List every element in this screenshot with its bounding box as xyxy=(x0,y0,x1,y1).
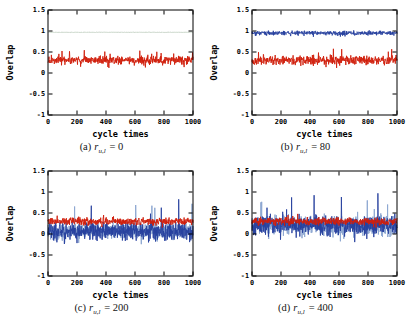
overlap-figure: 1.510.50-0.5-102004006008001000Overlapcy… xyxy=(0,0,407,323)
y-tick-label: 1.5 xyxy=(33,167,45,175)
flat-overlap-line xyxy=(48,32,193,33)
y-tick-label: -1 xyxy=(241,111,249,119)
x-tick-label: 400 xyxy=(304,279,316,287)
y-tick-label: 0.5 xyxy=(237,48,249,56)
x-tick-label: 600 xyxy=(333,118,345,126)
x-tick-label: 200 xyxy=(275,118,287,126)
panel-c: 1.510.50-0.5-102004006008001000Overlapcy… xyxy=(0,161,203,322)
x-tick-label: 1000 xyxy=(185,118,201,126)
panel-a-caption: (a)ru,l= 0 xyxy=(0,140,203,158)
y-axis-label: Overlap xyxy=(5,45,15,81)
y-tick-label: -1 xyxy=(241,272,249,280)
caption-subscript: u,l xyxy=(297,308,304,316)
caption-index: (d) xyxy=(278,302,290,313)
red-overlap-trace xyxy=(252,49,397,68)
x-tick-label: 1000 xyxy=(389,118,405,126)
x-tick-label: 800 xyxy=(362,279,374,287)
caption-index: (b) xyxy=(281,141,293,152)
x-tick-label: 0 xyxy=(46,279,50,287)
y-tick-label: 1.5 xyxy=(237,167,249,175)
x-tick-label: 200 xyxy=(71,279,83,287)
y-tick-label: -0.5 xyxy=(29,90,45,98)
plot-d: 1.510.50-0.5-102004006008001000Overlapcy… xyxy=(204,161,407,303)
x-tick-label: 200 xyxy=(275,279,287,287)
panel-b-caption: (b)ru,l= 80 xyxy=(204,140,407,158)
y-tick-label: 0 xyxy=(41,69,45,77)
y-tick-label: 0.5 xyxy=(33,48,45,56)
y-tick-label: -0.5 xyxy=(233,90,249,98)
x-tick-label: 400 xyxy=(100,279,112,287)
x-tick-label: 600 xyxy=(129,118,141,126)
y-tick-label: -1 xyxy=(37,111,45,119)
y-axis-label: Overlap xyxy=(209,45,219,81)
x-tick-label: 0 xyxy=(46,118,50,126)
caption-equation: = 0 xyxy=(110,141,124,152)
x-tick-label: 0 xyxy=(250,279,254,287)
x-tick-label: 600 xyxy=(129,279,141,287)
caption-equation: = 400 xyxy=(309,302,333,313)
plot-c: 1.510.50-0.5-102004006008001000Overlapcy… xyxy=(0,161,203,303)
y-tick-label: 1 xyxy=(41,27,45,35)
y-tick-label: 1.5 xyxy=(33,6,45,14)
caption-index: (c) xyxy=(74,302,86,313)
caption-subscript: u,l xyxy=(98,147,105,155)
x-axis-label: cycle times xyxy=(296,129,352,139)
x-tick-label: 1000 xyxy=(389,279,405,287)
y-tick-label: -0.5 xyxy=(233,251,249,259)
y-tick-label: 1.5 xyxy=(237,6,249,14)
caption-equation: = 80 xyxy=(311,141,330,152)
caption-index: (a) xyxy=(80,141,92,152)
panel-d-caption: (d)ru,l= 400 xyxy=(204,301,407,319)
y-tick-label: 0.5 xyxy=(33,209,45,217)
y-tick-label: 0.5 xyxy=(237,209,249,217)
x-axis-label: cycle times xyxy=(296,290,352,300)
x-tick-label: 600 xyxy=(333,279,345,287)
x-tick-label: 800 xyxy=(158,279,170,287)
y-tick-label: 1 xyxy=(41,188,45,196)
y-tick-label: 1 xyxy=(245,27,249,35)
x-tick-label: 800 xyxy=(158,118,170,126)
y-tick-label: -0.5 xyxy=(29,251,45,259)
caption-equation: = 200 xyxy=(104,302,128,313)
y-tick-label: 1 xyxy=(245,188,249,196)
y-axis-label: Overlap xyxy=(209,206,219,242)
y-tick-label: -1 xyxy=(37,272,45,280)
panel-b: 1.510.50-0.5-102004006008001000Overlapcy… xyxy=(204,0,407,161)
red-overlap-trace xyxy=(48,50,193,68)
x-tick-label: 800 xyxy=(362,118,374,126)
x-tick-label: 400 xyxy=(304,118,316,126)
x-tick-label: 1000 xyxy=(185,279,201,287)
panel-a: 1.510.50-0.5-102004006008001000Overlapcy… xyxy=(0,0,203,161)
x-tick-label: 0 xyxy=(250,118,254,126)
x-tick-label: 200 xyxy=(71,118,83,126)
y-tick-label: 0 xyxy=(41,230,45,238)
y-tick-label: 0 xyxy=(245,69,249,77)
caption-subscript: u,l xyxy=(93,308,100,316)
panel-c-caption: (c)ru,l= 200 xyxy=(0,301,203,319)
caption-subscript: u,l xyxy=(300,147,307,155)
x-tick-label: 400 xyxy=(100,118,112,126)
plot-b: 1.510.50-0.5-102004006008001000Overlapcy… xyxy=(204,0,407,142)
x-axis-label: cycle times xyxy=(92,129,148,139)
x-axis-label: cycle times xyxy=(92,290,148,300)
blue-overlap-trace xyxy=(252,30,397,37)
y-axis-label: Overlap xyxy=(5,206,15,242)
y-tick-label: 0 xyxy=(245,230,249,238)
panel-d: 1.510.50-0.5-102004006008001000Overlapcy… xyxy=(204,161,407,322)
plot-a: 1.510.50-0.5-102004006008001000Overlapcy… xyxy=(0,0,203,142)
